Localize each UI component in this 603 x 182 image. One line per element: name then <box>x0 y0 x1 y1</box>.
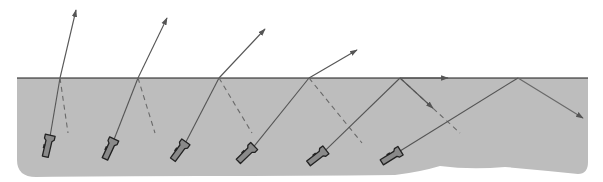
refracted-ray <box>60 10 76 78</box>
refracted-ray <box>219 29 265 78</box>
refracted-ray <box>138 18 167 78</box>
water-body <box>17 78 588 177</box>
refracted-ray <box>309 50 357 78</box>
refraction-diagram <box>0 0 603 182</box>
